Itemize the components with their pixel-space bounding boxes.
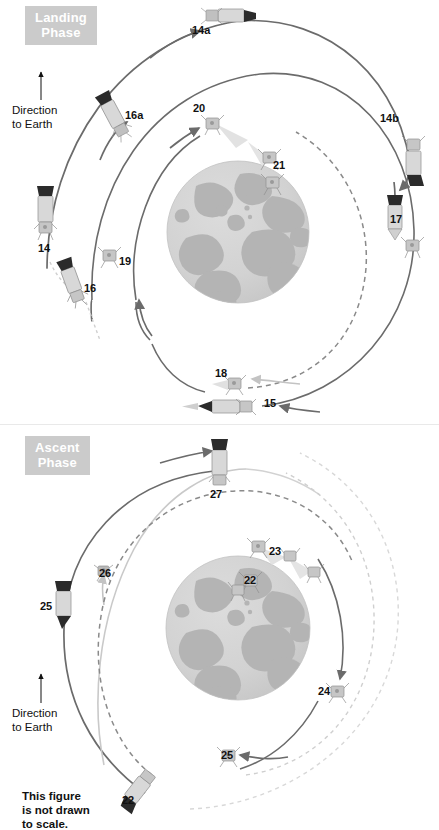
landing-phase-badge: Landing Phase [25, 6, 97, 45]
orbit-arrow-27 [160, 451, 212, 463]
ascent-badge-line1: Ascent [35, 440, 80, 455]
marker-label-19: 19 [119, 256, 131, 267]
landing-badge-line2: Phase [35, 25, 87, 40]
ascent-phase-diagram [0, 425, 439, 830]
orbit-arrow-25-bottom [240, 755, 288, 759]
orbit-arrow-24 [318, 559, 343, 679]
spacecraft-14a [201, 8, 256, 24]
marker-label-18: 18 [215, 368, 227, 379]
moon-ascent [166, 556, 312, 709]
spacecraft-20 [201, 115, 224, 135]
ascent-badge-line2: Phase [35, 455, 80, 470]
moon-landing [167, 161, 312, 314]
orbit-light-upper-right [246, 469, 320, 495]
orbit-inner-bottom [152, 344, 205, 392]
marker-label-22-top: 22 [244, 575, 256, 586]
marker-label-16a: 16a [125, 110, 143, 121]
marker-label-21: 21 [273, 160, 285, 171]
landing-phase-diagram [0, 0, 439, 425]
marker-label-14a: 14a [192, 25, 210, 36]
orbit-arrow-19 [139, 300, 152, 336]
plume-20 [216, 124, 248, 148]
orbit-arrow-15 [280, 406, 320, 412]
marker-label-14b: 14b [380, 113, 399, 124]
orbit-arrow-20 [170, 128, 199, 148]
marker-label-14: 14 [38, 243, 50, 254]
landing-badge-line1: Landing [35, 10, 87, 25]
trail-16-down [86, 302, 100, 340]
direction-to-earth-landing: Direction to Earth [12, 103, 57, 131]
scale-note: This figure is not drawn to scale. [22, 789, 90, 830]
spacecraft-25-left [55, 581, 72, 629]
marker-label-22-bottom: 22 [122, 795, 134, 806]
marker-label-23: 23 [269, 546, 281, 557]
marker-label-26: 26 [99, 568, 111, 579]
marker-label-16: 16 [84, 283, 96, 294]
direction-to-earth-ascent: Direction to Earth [12, 706, 57, 734]
ascent-phase-panel: Ascent Phase Direction to Earth This fig… [0, 425, 439, 830]
marker-label-24: 24 [318, 686, 330, 697]
marker-label-15: 15 [264, 398, 276, 409]
spacecraft-27 [209, 439, 230, 485]
ascent-phase-badge: Ascent Phase [25, 436, 90, 475]
landing-phase-panel: Landing Phase Direction to Earth 14a 14b… [0, 0, 439, 425]
spacecraft-14 [34, 186, 57, 240]
marker-label-25-left: 25 [40, 601, 52, 612]
spacecraft-15 [182, 399, 256, 415]
marker-label-20: 20 [193, 103, 205, 114]
marker-label-27: 27 [210, 489, 222, 500]
marker-label-25-bottom: 25 [221, 750, 233, 761]
marker-label-17: 17 [390, 214, 402, 225]
orbit-middle-tail [91, 300, 92, 321]
spacecraft-19 [98, 247, 121, 268]
